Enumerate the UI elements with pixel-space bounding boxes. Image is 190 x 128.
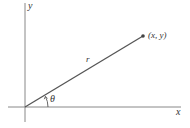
point-marker bbox=[141, 34, 145, 38]
diagram-svg bbox=[0, 0, 190, 128]
angle-label: θ bbox=[50, 94, 55, 104]
radius-ray bbox=[25, 36, 143, 107]
polar-coordinates-diagram: y x (x, y) r θ bbox=[0, 0, 190, 128]
radius-label: r bbox=[86, 55, 90, 64]
y-axis-label: y bbox=[28, 1, 32, 11]
x-axis-label: x bbox=[176, 107, 180, 117]
point-label: (x, y) bbox=[148, 31, 166, 40]
